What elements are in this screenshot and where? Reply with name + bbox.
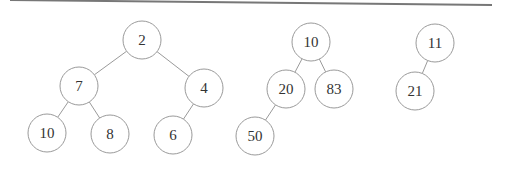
top-rule-line [10,0,492,5]
node-label: 50 [248,128,263,144]
tree-edge [157,52,189,77]
edges-layer [58,51,428,120]
node-label: 83 [327,81,342,97]
node-label: 4 [200,80,208,96]
tree-edge [183,104,193,119]
tree-node: 8 [91,115,129,153]
tree-node: 10 [28,114,66,152]
tree-node: 21 [396,72,434,110]
tree-node: 4 [185,69,223,107]
tree-node: 83 [315,70,353,108]
tree-node: 7 [60,67,98,105]
node-label: 6 [169,127,177,143]
tree-edge [265,105,275,120]
tree-node: 11 [416,24,454,62]
heap-forest-diagram: 2741086102083501121 [0,0,505,175]
nodes-layer: 2741086102083501121 [28,21,454,155]
node-label: 8 [106,126,114,142]
node-label: 10 [304,34,319,50]
tree-edge [422,61,427,74]
tree-node: 50 [236,117,274,155]
node-label: 7 [75,78,83,94]
tree-edge [58,102,69,118]
tree-node: 2 [123,21,161,59]
node-label: 2 [138,32,146,48]
tree-node: 6 [154,116,192,154]
tree-node: 20 [267,70,305,108]
tree-edge [89,102,99,118]
tree-edge [319,59,325,72]
node-label: 11 [428,35,442,51]
node-label: 10 [40,125,55,141]
tree-node: 10 [292,23,330,61]
tree-edge [295,59,302,72]
node-label: 21 [408,83,423,99]
node-label: 20 [279,81,294,97]
tree-edge [94,51,126,75]
